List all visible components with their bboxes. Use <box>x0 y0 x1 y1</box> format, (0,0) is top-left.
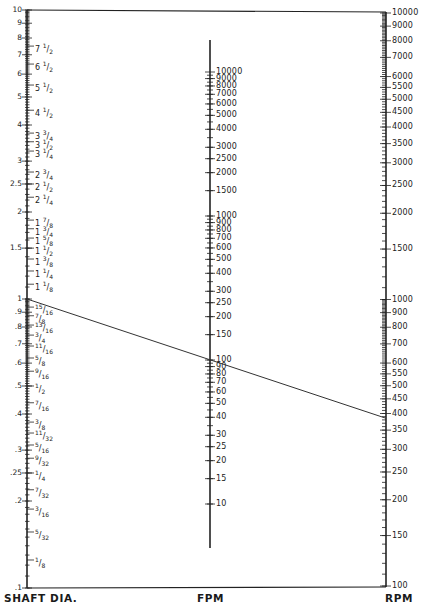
rpm-label: 1500 <box>392 245 413 253</box>
shaft-dia-decimal-label: .6 <box>0 359 22 367</box>
fpm-label: 10 <box>216 500 227 508</box>
shaft-dia-fraction-label: 1 1/4 <box>35 267 53 281</box>
shaft-dia-decimal-label: 8 <box>0 34 22 42</box>
shaft-dia-fraction-label: 9/16 <box>35 367 49 381</box>
shaft-dia-fraction-label: 7 1/2 <box>35 42 53 56</box>
shaft-dia-fraction-label: 1/8 <box>35 556 45 570</box>
shaft-dia-decimal-label: .1 <box>0 584 22 592</box>
rpm-label: 900 <box>392 309 408 317</box>
fpm-label: 2500 <box>216 155 237 163</box>
fpm-label: 40 <box>216 413 227 421</box>
shaft-dia-fraction-label: 7/16 <box>35 399 49 413</box>
rpm-label: 200 <box>392 496 408 504</box>
fpm-label: 60 <box>216 388 227 396</box>
shaft-dia-fraction-label: 2 1/2 <box>35 180 53 194</box>
rpm-label: 500 <box>392 382 408 390</box>
shaft-dia-decimal-label: 2.5 <box>0 180 22 188</box>
shaft-dia-fraction-label: 2 1/4 <box>35 193 53 207</box>
rpm-label: 800 <box>392 323 408 331</box>
shaft-dia-decimal-label: 3 <box>0 157 22 165</box>
rpm-label: 250 <box>392 468 408 476</box>
rpm-label: 600 <box>392 359 408 367</box>
shaft-dia-decimal-label: .4 <box>0 410 22 418</box>
fpm-label: 50 <box>216 399 227 407</box>
fpm-label: 20 <box>216 457 227 465</box>
shaft-dia-decimal-label: 7 <box>0 51 22 59</box>
shaft-dia-decimal-label: 6 <box>0 70 22 78</box>
rpm-label: 4000 <box>392 123 413 131</box>
fpm-label: 6000 <box>216 100 237 108</box>
rpm-label: 5500 <box>392 83 413 91</box>
shaft-dia-decimal-label: .9 <box>0 308 22 316</box>
fpm-label: 300 <box>216 287 232 295</box>
axis-ticks <box>22 10 391 588</box>
rpm-label: 1000 <box>392 296 413 304</box>
fpm-label: 250 <box>216 299 232 307</box>
rpm-label: 350 <box>392 426 408 434</box>
rpm-label: 3500 <box>392 140 413 148</box>
shaft-dia-decimal-label: 1 <box>0 295 22 303</box>
shaft-dia-decimal-label: 9 <box>0 19 22 27</box>
shaft-dia-decimal-label: 1.5 <box>0 244 22 252</box>
shaft-dia-decimal-label: 4 <box>0 121 22 129</box>
shaft-dia-axis-title: SHAFT DIA. <box>4 592 77 604</box>
shaft-dia-decimal-label: 5 <box>0 93 22 101</box>
shaft-dia-decimal-label: 10 <box>0 6 22 14</box>
rpm-label: 150 <box>392 532 408 540</box>
rpm-label: 700 <box>392 340 408 348</box>
fpm-label: 2000 <box>216 169 237 177</box>
shaft-dia-decimal-label: .5 <box>0 382 22 390</box>
chart-frame <box>27 10 386 588</box>
rpm-label: 5000 <box>392 95 413 103</box>
shaft-dia-fraction-label: 9/32 <box>35 454 49 468</box>
rpm-label: 100 <box>392 582 408 590</box>
rpm-label: 3000 <box>392 159 413 167</box>
fpm-label: 600 <box>216 244 232 252</box>
shaft-dia-fraction-label: 1 1/8 <box>35 280 53 294</box>
rpm-label: 4500 <box>392 108 413 116</box>
rpm-axis-title: RPM <box>385 592 413 604</box>
fpm-label: 700 <box>216 234 232 242</box>
rpm-label: 8000 <box>392 37 413 45</box>
nomograph-chart <box>0 0 424 609</box>
rpm-label: 7000 <box>392 53 413 61</box>
rpm-label: 300 <box>392 445 408 453</box>
shaft-dia-decimal-label: .2 <box>0 497 22 505</box>
shaft-dia-fraction-label: 1/2 <box>35 382 45 396</box>
shaft-dia-decimal-label: 2 <box>0 208 22 216</box>
shaft-dia-fraction-label: 7/32 <box>35 486 49 500</box>
rpm-label: 9000 <box>392 22 413 30</box>
fpm-label: 400 <box>216 269 232 277</box>
fpm-label: 200 <box>216 313 232 321</box>
shaft-dia-fraction-label: 4 1/2 <box>35 106 53 120</box>
shaft-dia-decimal-label: .25 <box>0 469 22 477</box>
fpm-label: 25 <box>216 443 227 451</box>
fpm-label: 7000 <box>216 90 237 98</box>
fpm-label: 3000 <box>216 143 237 151</box>
shaft-dia-fraction-label: 5/16 <box>35 441 49 455</box>
shaft-dia-fraction-label: 3/16 <box>35 505 49 519</box>
fpm-label: 70 <box>216 378 227 386</box>
rpm-label: 550 <box>392 370 408 378</box>
fpm-label: 15 <box>216 475 227 483</box>
rpm-label: 10000 <box>392 9 418 17</box>
fpm-label: 5000 <box>216 111 237 119</box>
shaft-dia-fraction-label: 5 1/2 <box>35 81 53 95</box>
fpm-label: 4000 <box>216 125 237 133</box>
shaft-dia-decimal-label: .7 <box>0 340 22 348</box>
fpm-label: 150 <box>216 331 232 339</box>
rpm-label: 6000 <box>392 73 413 81</box>
shaft-dia-fraction-label: 5/8 <box>35 354 45 368</box>
shaft-dia-fraction-label: 1/4 <box>35 469 45 483</box>
rpm-label: 400 <box>392 410 408 418</box>
shaft-dia-decimal-label: .8 <box>0 323 22 331</box>
fpm-label: 30 <box>216 431 227 439</box>
fpm-label: 500 <box>216 255 232 263</box>
rpm-label: 2500 <box>392 181 413 189</box>
rpm-label: 450 <box>392 395 408 403</box>
shaft-dia-decimal-label: .3 <box>0 446 22 454</box>
rpm-label: 2000 <box>392 209 413 217</box>
shaft-dia-fraction-label: 5/32 <box>35 528 49 542</box>
shaft-dia-fraction-label: 6 1/2 <box>35 60 53 74</box>
shaft-dia-fraction-label: 3 1/4 <box>35 147 53 161</box>
